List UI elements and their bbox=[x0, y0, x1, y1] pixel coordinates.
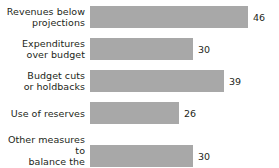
chart-row: Expenditures over budget 30 bbox=[0, 38, 279, 60]
bar bbox=[90, 6, 248, 28]
bar bbox=[90, 145, 193, 167]
bar-area: 26 bbox=[90, 102, 279, 124]
bar-value-label: 46 bbox=[248, 12, 265, 23]
bar-area: 30 bbox=[90, 38, 279, 60]
bar-area: 30 bbox=[90, 145, 279, 167]
category-label: Use of reserves bbox=[0, 108, 90, 119]
category-label: Expenditures over budget bbox=[0, 38, 90, 60]
bar bbox=[90, 38, 193, 60]
bar-area: 46 bbox=[90, 6, 279, 28]
category-label: Revenues below projections bbox=[0, 6, 90, 28]
bar bbox=[90, 70, 224, 92]
chart-row: Other measures to balance the budget 30 bbox=[0, 134, 279, 168]
category-label: Other measures to balance the budget bbox=[0, 134, 90, 168]
bar-value-label: 39 bbox=[224, 76, 241, 87]
category-label: Budget cuts or holdbacks bbox=[0, 70, 90, 92]
horizontal-bar-chart: Revenues below projections 46 Expenditur… bbox=[0, 0, 279, 168]
bar-value-label: 30 bbox=[193, 151, 210, 162]
bar-area: 39 bbox=[90, 70, 279, 92]
chart-row: Use of reserves 26 bbox=[0, 102, 279, 124]
chart-row: Budget cuts or holdbacks 39 bbox=[0, 70, 279, 92]
chart-row: Revenues below projections 46 bbox=[0, 6, 279, 28]
bar-value-label: 30 bbox=[193, 44, 210, 55]
bar bbox=[90, 102, 179, 124]
bar-value-label: 26 bbox=[179, 108, 196, 119]
